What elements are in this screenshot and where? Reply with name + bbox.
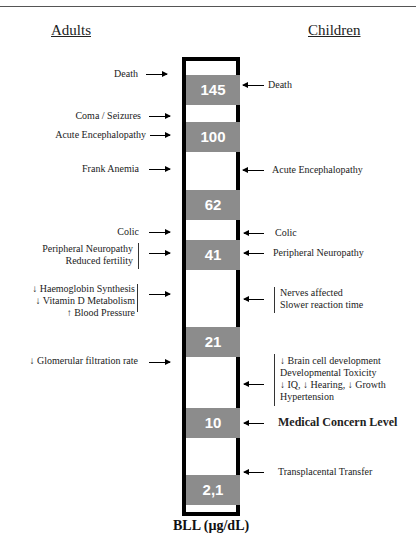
adult-label-colic: Colic xyxy=(117,226,139,238)
level-box-21: 21 xyxy=(186,327,240,357)
adult-label-coma-seizures: Coma / Seizures xyxy=(75,110,141,122)
arrow-left-icon xyxy=(243,170,264,171)
child-label-death: Death xyxy=(268,79,292,91)
heading-adults: Adults xyxy=(51,22,91,39)
arrow-right-icon xyxy=(149,169,170,170)
adult-label-haemoglobin-group: ↓ Haemoglobin Synthesis ↓ Vitamin D Meta… xyxy=(32,283,135,319)
arrow-right-icon xyxy=(149,362,170,363)
child-label-colic: Colic xyxy=(275,227,297,239)
adult-label-glomerular: ↓ Glomerular filtration rate xyxy=(29,355,138,367)
child-label-transplacental-transfer: Transplacental Transfer xyxy=(278,466,372,478)
arrow-right-icon xyxy=(149,253,170,254)
adult-label-acute-encephalopathy: Acute Encephalopathy xyxy=(55,129,146,141)
level-box-100: 100 xyxy=(186,122,240,152)
adult-label-peripheral-neuropathy: Peripheral Neuropathy Reduced fertility xyxy=(42,243,133,267)
child-label-acute-encephalopathy: Acute Encephalopathy xyxy=(272,164,363,176)
bll-column: 145 100 62 41 21 10 2,1 xyxy=(182,57,240,516)
bracket-line xyxy=(274,287,275,313)
child-label-developmental-group: ↓ Brain cell development Developmental T… xyxy=(280,355,386,403)
level-box-145: 145 xyxy=(186,75,240,105)
arrow-left-icon xyxy=(244,253,264,254)
arrow-left-icon xyxy=(244,233,264,234)
level-box-10: 10 xyxy=(186,408,240,438)
bracket-line xyxy=(138,243,139,269)
child-label-peripheral-neuropathy: Peripheral Neuropathy xyxy=(273,247,364,259)
top-rule xyxy=(0,6,416,7)
adult-label-death: Death xyxy=(114,68,138,80)
arrow-left-icon xyxy=(244,299,264,300)
arrow-left-icon xyxy=(243,85,264,86)
bracket-line xyxy=(274,354,275,406)
level-box-62: 62 xyxy=(186,190,240,220)
arrow-right-icon xyxy=(150,135,170,136)
arrow-right-icon xyxy=(149,116,170,117)
bracket-line xyxy=(137,284,138,312)
arrow-left-icon xyxy=(244,423,264,424)
child-label-medical-concern-level: Medical Concern Level xyxy=(278,416,397,428)
adult-label-frank-anemia: Frank Anemia xyxy=(82,163,139,175)
child-label-nerves-group: Nerves affected Slower reaction time xyxy=(280,287,363,311)
arrow-left-icon xyxy=(244,472,264,473)
arrow-left-icon xyxy=(244,384,264,385)
heading-children: Children xyxy=(308,22,361,39)
axis-label-bll: BLL (µg/dL) xyxy=(173,518,249,534)
arrow-right-icon xyxy=(149,232,170,233)
level-box-41: 41 xyxy=(186,240,240,270)
arrow-right-icon xyxy=(149,294,170,295)
level-box-2-1: 2,1 xyxy=(186,475,240,505)
arrow-right-icon xyxy=(146,74,167,75)
